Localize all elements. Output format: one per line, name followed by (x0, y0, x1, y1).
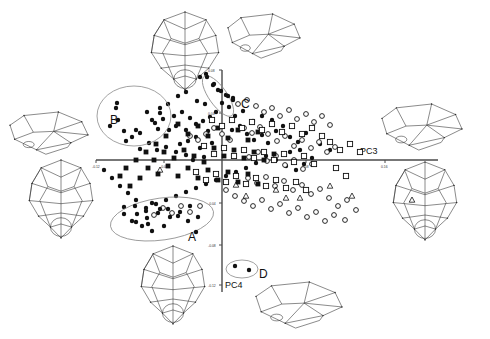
point-open-circle (312, 120, 317, 125)
pca-figure: -0.12-0.040.080.160.080.04-0.04-0.08-0.1… (0, 0, 490, 339)
point-open-square (209, 117, 214, 122)
point-open-circle (300, 138, 305, 143)
skull-dorsal-top-center-landmark (215, 35, 216, 36)
skull-dorsal-left-lower-landmark (80, 167, 81, 168)
point-filled-square (202, 160, 207, 165)
point-open-circle (170, 211, 175, 216)
point-filled-square (182, 148, 187, 153)
skull-dorsal-right-lower-landmark (453, 185, 454, 186)
skull-lateral-top-right-landmark (272, 13, 273, 14)
skull-dorsal-bottom-center-landmark (143, 269, 144, 270)
skull-dorsal-left-lower-landmark (50, 226, 51, 227)
y-tick-label: -0.12 (208, 284, 216, 288)
cluster-A: A (108, 191, 217, 247)
point-filled-square (186, 132, 191, 137)
cluster-point (144, 209, 148, 213)
point-open-circle (236, 102, 241, 107)
cluster-point (226, 94, 230, 98)
point-filled-circle (138, 131, 142, 135)
point-filled-square (146, 166, 151, 171)
skull-lateral-right-brace-5 (427, 115, 456, 126)
skull-dorsal-bottom-center-landmark (162, 312, 163, 313)
skull-lateral-left-landmark (70, 142, 71, 143)
skull-dorsal-right-lower-landmark (395, 185, 396, 186)
point-triangle (409, 197, 415, 202)
point-filled-circle (274, 129, 278, 133)
point-filled-square (134, 158, 139, 163)
point-open-circle (295, 117, 300, 122)
point-filled-square (246, 138, 251, 143)
point-triangle (349, 193, 355, 198)
skull-dorsal-top-center-landmark (161, 67, 162, 68)
point-open-circle (336, 204, 341, 209)
point-open-circle (300, 183, 305, 188)
cluster-label-D: D (259, 267, 268, 281)
point-open-square (293, 179, 298, 184)
point-open-square (347, 141, 352, 146)
point-open-circle (188, 210, 193, 215)
point-open-square (229, 117, 234, 122)
point-open-circle (318, 187, 323, 192)
skull-dorsal-left-lower-landmark (83, 215, 84, 216)
skull-dorsal-bottom-center-left-inner (152, 255, 160, 286)
skull-dorsal-right-lower-landmark (424, 239, 425, 240)
cluster-point (134, 220, 138, 224)
skull-dorsal-left-lower-landmark (60, 237, 61, 238)
skull-lateral-left-brace-1 (15, 116, 34, 140)
point-open-square (273, 177, 278, 182)
cluster-C: C (197, 71, 250, 121)
skull-lateral-right-landmark (381, 118, 382, 119)
point-open-circle (309, 192, 314, 197)
point-open-circle (198, 204, 203, 209)
point-filled-circle (244, 166, 248, 170)
point-open-circle (220, 132, 225, 137)
point-open-circle (304, 112, 309, 117)
point-filled-circle (310, 156, 314, 160)
point-open-square (333, 165, 338, 170)
point-filled-square (154, 142, 159, 147)
point-filled-circle (184, 90, 188, 94)
point-open-circle (305, 215, 310, 220)
point-open-circle (287, 108, 292, 113)
skull-lateral-top-right-landmark (252, 53, 253, 54)
point-filled-circle (102, 168, 106, 172)
skull-lateral-top-right-brace-3 (250, 34, 300, 38)
skull-dorsal-right-lower-landmark (444, 169, 445, 170)
cluster-point (133, 204, 137, 208)
skull-lateral-top-right (227, 13, 300, 58)
point-filled-circle (130, 219, 134, 223)
point-filled-square (124, 166, 129, 171)
point-filled-circle (281, 124, 285, 128)
skull-lateral-bottom-right-brace-3 (282, 303, 342, 307)
skull-lateral-right-brace-3 (406, 125, 462, 129)
point-filled-circle (135, 212, 139, 216)
point-filled-square (262, 158, 267, 163)
point-filled-circle (252, 138, 256, 142)
skull-dorsal-bottom-center-landmark (150, 301, 151, 302)
point-filled-circle (254, 161, 258, 165)
point-triangle (243, 193, 249, 198)
skull-dorsal-bottom-center (141, 245, 206, 324)
point-open-square (241, 147, 246, 152)
point-filled-circle (184, 128, 188, 132)
skull-lateral-bottom-right-landmark (271, 285, 272, 286)
point-open-square (311, 161, 316, 166)
point-open-square (203, 177, 208, 182)
skull-lateral-right-landmark (461, 128, 462, 129)
point-open-square (327, 139, 332, 144)
point-open-circle (333, 145, 338, 150)
skull-lateral-bottom-right-brace-5 (304, 293, 335, 304)
x-tick-label: -0.12 (92, 165, 100, 169)
point-filled-square (246, 172, 251, 177)
point-open-square (213, 171, 218, 176)
skull-dorsal-left-lower (29, 159, 94, 238)
point-filled-circle (210, 141, 214, 145)
cluster-point (168, 215, 172, 219)
skull-dorsal-top-center-left-inner (163, 21, 171, 52)
point-open-square (251, 155, 256, 160)
point-open-circle (254, 104, 259, 109)
cluster-point (233, 264, 237, 268)
point-filled-square (152, 158, 157, 163)
skull-dorsal-left-lower-landmark (71, 226, 72, 227)
point-filled-circle (158, 106, 162, 110)
